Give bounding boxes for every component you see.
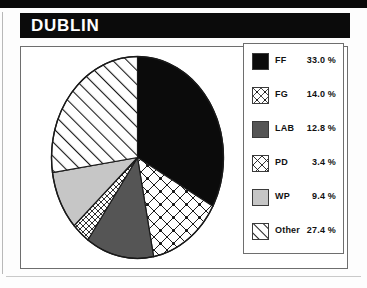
legend-item-other[interactable]: Other27.4 % xyxy=(244,215,343,249)
legend-swatch-wp xyxy=(252,189,269,206)
legend-label-fg: FG xyxy=(275,89,288,99)
chart-legend: FF33.0 %FG14.0 %LAB12.8 %PD3.4 %WP9.4 %O… xyxy=(243,43,344,254)
pie-chart-figure: DUBLIN xyxy=(20,13,350,271)
legend-label-pd: PD xyxy=(275,157,288,167)
legend-label-wp: WP xyxy=(275,191,290,201)
legend-swatch-other xyxy=(252,223,269,240)
page-left-edge-rule xyxy=(2,12,3,274)
pie-chart xyxy=(50,55,225,260)
legend-item-pd[interactable]: PD3.4 % xyxy=(244,147,343,181)
chart-title-bar: DUBLIN xyxy=(20,13,350,38)
pie-chart-svg xyxy=(50,55,225,260)
page-bottom-rule xyxy=(6,276,361,277)
legend-value-ff: 33.0 % xyxy=(307,55,336,65)
legend-swatch-pd xyxy=(252,155,269,172)
legend-label-ff: FF xyxy=(275,55,286,65)
legend-swatch-fg xyxy=(252,87,269,104)
legend-item-lab[interactable]: LAB12.8 % xyxy=(244,113,343,147)
legend-swatch-ff xyxy=(252,53,269,70)
legend-value-fg: 14.0 % xyxy=(307,89,336,99)
page-title: DUBLIN xyxy=(31,16,99,35)
legend-item-wp[interactable]: WP9.4 % xyxy=(244,181,343,215)
pie-slice-group xyxy=(52,57,224,259)
legend-value-other: 27.4 % xyxy=(307,225,336,235)
legend-label-lab: LAB xyxy=(275,123,294,133)
legend-value-lab: 12.8 % xyxy=(307,123,336,133)
pie-slice-other xyxy=(52,57,138,173)
page-top-black-bar xyxy=(0,0,367,8)
legend-value-wp: 9.4 % xyxy=(312,191,336,201)
legend-item-ff[interactable]: FF33.0 % xyxy=(244,45,343,79)
legend-item-fg[interactable]: FG14.0 % xyxy=(244,79,343,113)
legend-swatch-lab xyxy=(252,121,269,138)
legend-label-other: Other xyxy=(275,225,300,235)
legend-value-pd: 3.4 % xyxy=(312,157,336,167)
